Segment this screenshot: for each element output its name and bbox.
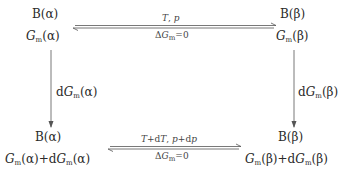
subscript-m: m <box>66 159 73 167</box>
diagram-arrows <box>0 0 349 172</box>
phase-label: (α) <box>21 152 38 166</box>
subscript-m: m <box>305 159 312 167</box>
gibbs-symbol: G <box>306 85 316 99</box>
top-arrow-below-label: ΔGm=0 <box>155 31 189 42</box>
plus-differential: +d <box>39 152 57 166</box>
bottom-right-species: B(β) <box>278 131 303 143</box>
gibbs-symbol: G <box>56 152 66 166</box>
gibbs-symbol: G <box>26 29 36 43</box>
differential-d: d <box>56 85 64 99</box>
gibbs-symbol: G <box>64 85 74 99</box>
top-arrow-above-label: T, p <box>162 14 180 23</box>
equals-zero: =0 <box>175 30 188 40</box>
bottom-arrow-above-label: T+dT, p+dp <box>141 135 197 144</box>
plus-differential: +d <box>278 152 296 166</box>
top-left-gibbs: Gm(α) <box>26 30 60 44</box>
phase-label: (β) <box>312 152 328 166</box>
gibbs-symbol: G <box>5 152 15 166</box>
phase-label: (β) <box>261 152 277 166</box>
left-down-arrow <box>49 50 54 128</box>
right-arrow-label: dGm(β) <box>298 86 338 100</box>
phase-label: (α) <box>73 152 90 166</box>
pressure-symbol: p <box>191 134 197 144</box>
subscript-m: m <box>73 92 80 100</box>
differential-d: d <box>298 85 306 99</box>
gibbs-symbol: G <box>162 151 169 161</box>
gibbs-symbol: G <box>295 152 305 166</box>
gibbs-symbol: G <box>162 30 169 40</box>
bottom-left-species: B(α) <box>35 131 61 143</box>
right-down-arrow <box>292 50 297 128</box>
phase-label: (α) <box>80 85 97 99</box>
pressure-symbol: p <box>174 13 180 23</box>
left-arrow-label: dGm(α) <box>56 86 97 100</box>
phase-label: (β) <box>322 85 338 99</box>
top-right-species: B(β) <box>280 8 305 20</box>
bottom-left-gibbs: Gm(α)+dGm(α) <box>5 153 90 167</box>
bottom-arrow-below-label: ΔGm=0 <box>155 152 189 163</box>
top-left-species: B(α) <box>32 8 58 20</box>
phase-label: (α) <box>42 29 59 43</box>
bottom-right-gibbs: Gm(β)+dGm(β) <box>245 153 328 167</box>
equals-zero: =0 <box>175 151 188 161</box>
top-right-gibbs: Gm(β) <box>276 30 309 44</box>
subscript-m: m <box>315 92 322 100</box>
gibbs-symbol: G <box>245 152 255 166</box>
plus-differential: +d <box>178 134 191 144</box>
plus-differential: +d <box>147 134 160 144</box>
phase-label: (β) <box>292 29 308 43</box>
gibbs-symbol: G <box>276 29 286 43</box>
